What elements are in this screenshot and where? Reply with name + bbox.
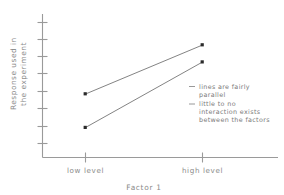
interaction-plot-svg: lines are fairly parallel little to no i… bbox=[0, 0, 284, 195]
annotation-2-line-2: interaction exists bbox=[199, 108, 261, 116]
x-axis-label: Factor 1 bbox=[126, 183, 161, 192]
data-point bbox=[84, 92, 87, 95]
annotation-2-line-1: little to no bbox=[199, 100, 236, 108]
y-axis-label-line-1: Response used in bbox=[9, 37, 18, 110]
data-point bbox=[201, 60, 204, 63]
annotation-1-line-2: parallel bbox=[199, 91, 226, 99]
x-tick-label-high: high level bbox=[182, 166, 223, 175]
y-axis-label-line-2: the experiment bbox=[19, 42, 28, 106]
series-line-upper bbox=[86, 45, 203, 94]
data-point bbox=[201, 43, 204, 46]
data-point-markers bbox=[84, 43, 204, 129]
annotation-1-line-1: lines are fairly bbox=[199, 83, 250, 91]
annotation-2-line-3: between the factors bbox=[199, 116, 270, 124]
series-line-lower bbox=[86, 62, 203, 128]
chart-figure: lines are fairly parallel little to no i… bbox=[0, 0, 284, 195]
data-point bbox=[84, 126, 87, 129]
x-tick-label-low: low level bbox=[67, 166, 104, 175]
